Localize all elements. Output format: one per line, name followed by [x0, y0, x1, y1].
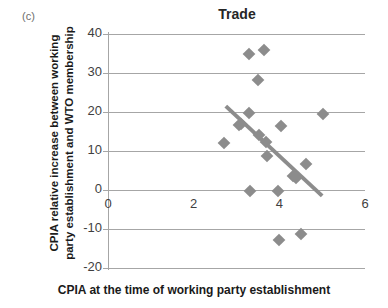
- y-tick-label: -20: [58, 259, 102, 274]
- data-point: [275, 120, 288, 133]
- y-tick-label: 40: [58, 25, 102, 40]
- y-tick-label: 30: [58, 64, 102, 79]
- data-point: [260, 136, 273, 149]
- data-point: [272, 185, 285, 198]
- x-axis-title: CPIA at the time of working party establ…: [0, 283, 388, 297]
- data-point: [258, 43, 271, 56]
- data-point: [273, 234, 286, 247]
- data-point: [244, 185, 257, 198]
- y-tick-label: 0: [58, 181, 102, 196]
- data-point: [217, 137, 230, 150]
- panel-label: (c): [22, 10, 35, 22]
- gridline-y: [108, 151, 365, 152]
- chart-title: Trade: [108, 6, 366, 22]
- gridline-y: [108, 73, 365, 74]
- data-point: [300, 157, 313, 170]
- gridline-y: [108, 190, 365, 191]
- chart-figure: (c) Trade CPIA relative increase between…: [0, 0, 388, 308]
- gridline-y: [108, 34, 365, 35]
- y-tick-label: 20: [58, 103, 102, 118]
- data-point: [243, 47, 256, 60]
- y-tick-label: -10: [58, 220, 102, 235]
- data-point: [317, 108, 330, 121]
- y-tick-label: 10: [58, 142, 102, 157]
- plot-area: [108, 34, 365, 268]
- data-point: [243, 107, 256, 120]
- gridline-y: [108, 268, 365, 269]
- gridline-y: [108, 229, 365, 230]
- data-point: [252, 73, 265, 86]
